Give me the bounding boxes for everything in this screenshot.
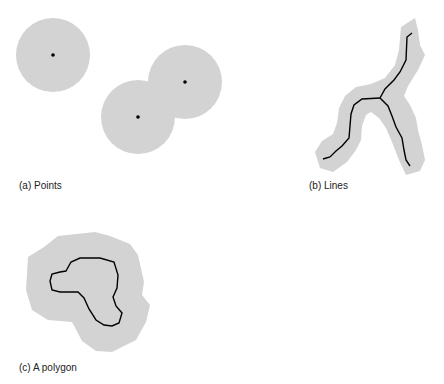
panel-polygon [26, 232, 150, 352]
caption-points: (a) Points [19, 180, 62, 191]
panel-lines [315, 18, 425, 175]
polygon-buffer [26, 232, 150, 352]
line-buffer [315, 18, 425, 175]
point-feature [183, 80, 187, 84]
buffer-diagram [0, 0, 444, 384]
panel-points [16, 18, 222, 154]
caption-polygon: (c) A polygon [19, 362, 77, 373]
caption-lines: (b) Lines [309, 180, 348, 191]
point-feature [51, 53, 55, 57]
point-feature [136, 115, 140, 119]
